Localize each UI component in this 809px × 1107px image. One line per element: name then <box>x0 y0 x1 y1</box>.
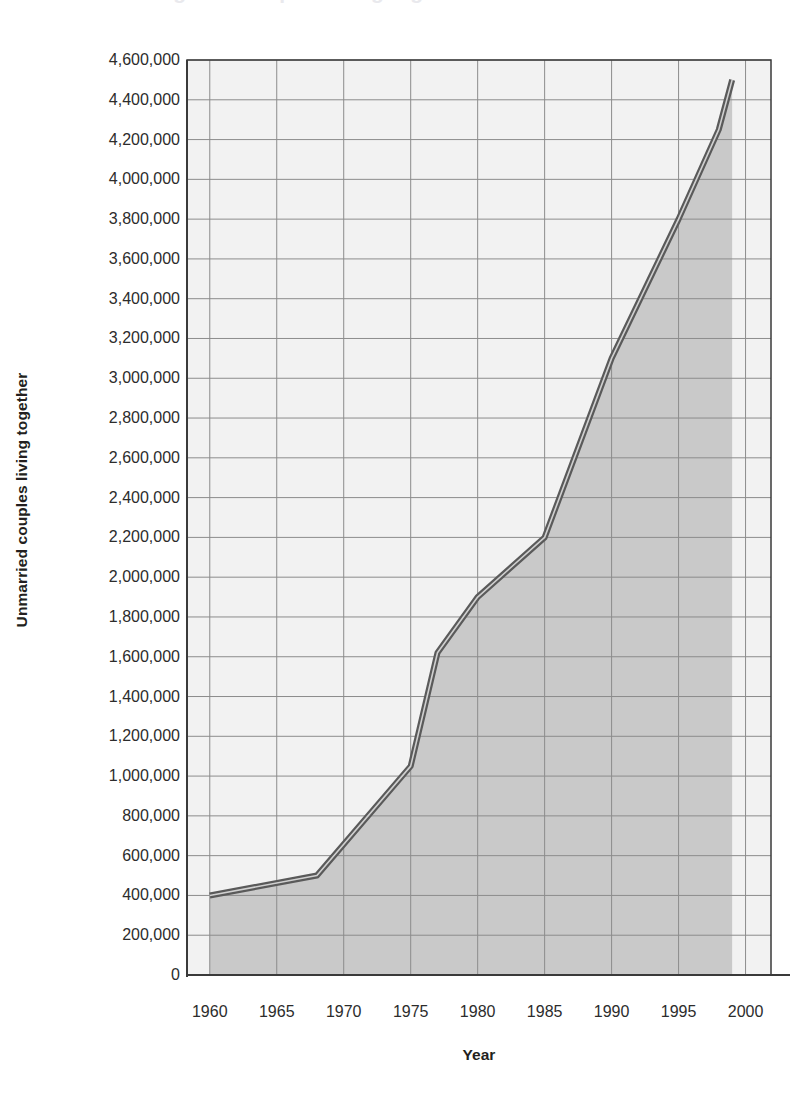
x-axis-title: Year <box>187 1046 771 1064</box>
x-axis-tick-labels: 196019651970197519801985199019952000 <box>0 1004 809 1030</box>
chart-figure: Changes in couples living together Unmar… <box>0 0 809 1107</box>
plot-area <box>0 0 809 1107</box>
x-axis-tick-label: 2000 <box>701 1004 791 1020</box>
